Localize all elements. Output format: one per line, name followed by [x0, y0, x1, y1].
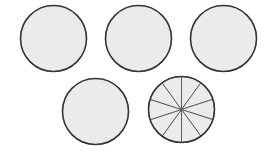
circle-4-disc: [63, 79, 129, 145]
circles-group: [21, 6, 257, 145]
circle-2-disc: [106, 6, 172, 72]
circle-1: [21, 6, 87, 72]
circle-3-disc: [191, 6, 257, 72]
circle-4: [63, 79, 129, 145]
circle-3: [191, 6, 257, 72]
fraction-circles-figure: [0, 0, 270, 153]
circle-1-disc: [21, 6, 87, 72]
circle-2: [106, 6, 172, 72]
circle-5: [148, 77, 214, 143]
fraction-circles-canvas: [0, 0, 270, 153]
